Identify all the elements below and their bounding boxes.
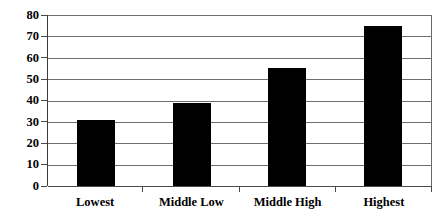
y-axis-tick-label: 60 (27, 51, 42, 64)
x-axis-tick (143, 186, 239, 192)
plot-area (47, 15, 432, 186)
x-axis-category-label: Lowest (47, 193, 143, 215)
x-axis-tick (47, 186, 143, 192)
y-axis-tick-label: 40 (27, 94, 42, 107)
y-axis: 01020304050607080 (0, 0, 47, 224)
bar-slot (48, 15, 144, 186)
bar-slot (335, 15, 431, 186)
y-axis-tick-label: 50 (27, 72, 42, 85)
x-axis-tick (336, 186, 432, 192)
y-axis-tick-label: 70 (27, 30, 42, 43)
bar[interactable] (268, 68, 306, 186)
y-axis-tick-label: 10 (27, 158, 42, 171)
x-axis-category-label: Highest (336, 193, 432, 215)
x-axis-tick-mark (431, 186, 432, 192)
bar[interactable] (173, 103, 211, 186)
x-axis-category-label: Middle High (240, 193, 336, 215)
x-axis-ticks (47, 186, 432, 192)
y-axis-tick-label: 30 (27, 115, 42, 128)
bar-chart: 01020304050607080 LowestMiddle LowMiddle… (0, 0, 448, 224)
y-axis-tick-label: 0 (33, 179, 41, 192)
y-axis-tick-label: 80 (27, 8, 42, 21)
bar[interactable] (364, 26, 402, 186)
x-axis-labels: LowestMiddle LowMiddle HighHighest (47, 193, 432, 215)
bar-slot (240, 15, 336, 186)
bars-group (48, 15, 431, 186)
x-axis-tick (240, 186, 336, 192)
bar-slot (144, 15, 240, 186)
y-axis-tick-label: 20 (27, 137, 42, 150)
bar[interactable] (77, 120, 115, 186)
x-axis-category-label: Middle Low (143, 193, 239, 215)
